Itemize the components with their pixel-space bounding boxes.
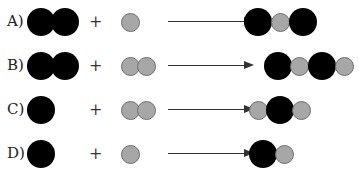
plus-sign: + [89, 101, 102, 119]
gray-atom [121, 13, 140, 32]
option-label: B) [7, 56, 24, 74]
option-label: C) [7, 100, 24, 118]
black-atom [27, 140, 55, 168]
reaction-arrow-icon [168, 60, 254, 72]
gray-atom [121, 145, 140, 164]
black-atom [27, 96, 55, 124]
black-atom [289, 8, 317, 36]
reaction-arrow-icon [168, 104, 254, 116]
gray-atom [290, 57, 309, 76]
option-label: D) [7, 144, 25, 162]
option-b: B) + [0, 52, 359, 92]
black-atom [264, 52, 292, 80]
plus-sign: + [89, 13, 102, 31]
option-label: A) [7, 12, 24, 30]
plus-sign: + [89, 145, 102, 163]
black-atom [51, 52, 79, 80]
black-atom [244, 8, 272, 36]
option-c: C) + [0, 96, 359, 136]
reaction-arrow-icon [168, 16, 254, 28]
black-atom [266, 96, 294, 124]
black-atom [51, 8, 79, 36]
option-d: D) + [0, 140, 359, 178]
plus-sign: + [89, 57, 102, 75]
gray-atom [271, 13, 290, 32]
gray-atom [292, 101, 311, 120]
gray-atom [137, 101, 156, 120]
gray-atom [137, 57, 156, 76]
gray-atom [335, 57, 354, 76]
option-a: A) + [0, 8, 359, 48]
gray-atom [275, 145, 294, 164]
black-atom [249, 140, 277, 168]
reaction-arrow-icon [168, 148, 254, 160]
black-atom [308, 52, 336, 80]
